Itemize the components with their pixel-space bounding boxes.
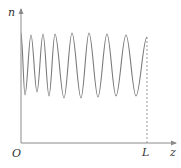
origin-label: O <box>12 148 21 159</box>
x-axis-label: z <box>170 147 176 158</box>
end-marker-label: L <box>142 147 149 158</box>
oscillation-diagram <box>0 0 181 168</box>
y-axis-label: n <box>8 7 15 18</box>
oscillating-curve <box>21 33 147 98</box>
